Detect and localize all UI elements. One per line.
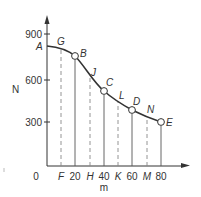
point-label-A: A bbox=[35, 41, 43, 52]
point-label-C: C bbox=[106, 77, 114, 88]
axes bbox=[44, 15, 190, 168]
point-B-marker bbox=[72, 53, 79, 60]
y-tick-label-900: 900 bbox=[25, 29, 42, 40]
y-axis-title: N bbox=[12, 84, 19, 95]
x-tick-label-60: 60 bbox=[126, 171, 138, 182]
point-label-N: N bbox=[147, 104, 155, 115]
point-D-marker bbox=[129, 107, 136, 114]
x-tick-label-0: 0 bbox=[33, 171, 39, 182]
x-axis-arrow-icon bbox=[181, 163, 190, 168]
y-tick-label-600: 600 bbox=[25, 75, 42, 86]
x-tick-label-20: 20 bbox=[69, 171, 81, 182]
x-tick-label-K: K bbox=[115, 171, 123, 182]
diagram-canvas: 900 600 300 N m 0 F 20 H 40 K 60 M 80 A … bbox=[0, 0, 201, 197]
point-label-J: J bbox=[90, 67, 97, 78]
x-tick-label-F: F bbox=[58, 171, 65, 182]
x-tick-label-M: M bbox=[143, 171, 152, 182]
point-label-D: D bbox=[133, 96, 140, 107]
point-E-marker bbox=[158, 119, 165, 126]
y-axis-arrow-icon bbox=[45, 15, 50, 24]
x-tick-label-80: 80 bbox=[155, 171, 167, 182]
y-tick-label-300: 300 bbox=[25, 117, 42, 128]
point-C-marker bbox=[101, 88, 108, 95]
x-tick-label-40: 40 bbox=[98, 171, 110, 182]
point-label-E: E bbox=[166, 117, 173, 128]
point-label-L: L bbox=[119, 90, 125, 101]
x-tick-label-H: H bbox=[86, 171, 94, 182]
x-axis-title: m bbox=[100, 182, 108, 193]
point-label-G: G bbox=[57, 36, 65, 47]
point-label-B: B bbox=[80, 48, 87, 59]
